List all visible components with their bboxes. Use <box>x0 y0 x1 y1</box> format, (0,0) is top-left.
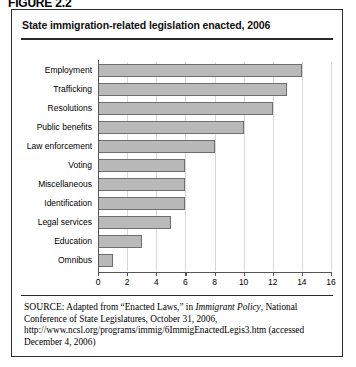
bar-row: Resolutions <box>98 100 331 119</box>
bar <box>98 197 185 210</box>
bar-row: Public benefits <box>98 119 331 138</box>
chart-title: State immigration-related legislation en… <box>22 19 270 31</box>
category-label: Employment <box>45 63 92 77</box>
x-axis-tick <box>215 272 216 276</box>
bar <box>98 235 142 248</box>
category-label: Omnibus <box>58 253 92 267</box>
x-axis-tick <box>302 272 303 276</box>
x-axis-tick-label: 8 <box>212 277 217 287</box>
gridline <box>331 62 332 271</box>
bar-row: Identification <box>98 195 331 214</box>
title-divider <box>21 38 333 40</box>
x-axis-tick-label: 16 <box>326 277 335 287</box>
x-axis-tick-label: 10 <box>239 277 248 287</box>
x-axis-tick <box>185 272 186 276</box>
bar-row: Voting <box>98 157 331 176</box>
x-axis-tick <box>273 272 274 276</box>
bar <box>98 121 244 134</box>
figure-container: State immigration-related legislation en… <box>11 9 343 357</box>
category-label: Law enforcement <box>27 139 92 153</box>
source-text-before: Adapted from “Enacted Laws,” in <box>65 302 196 312</box>
x-axis-tick-label: 2 <box>125 277 130 287</box>
category-label: Resolutions <box>48 101 92 115</box>
bar-row: Omnibus <box>98 252 331 271</box>
x-axis-tick-label: 12 <box>268 277 277 287</box>
x-axis-tick <box>127 272 128 276</box>
category-label: Legal services <box>38 215 92 229</box>
x-axis-tick <box>331 272 332 276</box>
category-label: Miscellaneous <box>38 177 92 191</box>
source-divider <box>21 295 333 296</box>
bar-row: Miscellaneous <box>98 176 331 195</box>
x-axis-tick-label: 6 <box>183 277 188 287</box>
x-axis-tick <box>156 272 157 276</box>
category-label: Voting <box>68 158 92 172</box>
bar-row: Law enforcement <box>98 138 331 157</box>
bar <box>98 159 185 172</box>
x-axis-tick <box>98 272 99 276</box>
bar <box>98 64 302 77</box>
category-label: Education <box>54 234 92 248</box>
x-axis-tick <box>244 272 245 276</box>
bar <box>98 254 113 267</box>
category-label: Identification <box>44 196 92 210</box>
bar <box>98 216 171 229</box>
bar-row: Legal services <box>98 214 331 233</box>
bar <box>98 140 215 153</box>
x-axis-tick-label: 4 <box>154 277 159 287</box>
source-prefix: SOURCE: <box>24 301 65 312</box>
chart-plot-area: EmploymentTraffickingResolutionsPublic b… <box>98 62 331 271</box>
source-publication-title: Immigrant Policy <box>195 302 260 312</box>
bar-row: Trafficking <box>98 81 331 100</box>
category-label: Trafficking <box>53 82 92 96</box>
bar-row: Education <box>98 233 331 252</box>
bar-row: Employment <box>98 62 331 81</box>
category-label: Public benefits <box>37 120 92 134</box>
x-axis-tick-label: 14 <box>297 277 306 287</box>
bar <box>98 83 287 96</box>
y-axis-line <box>98 60 99 273</box>
source-note: SOURCE: Adapted from “Enacted Laws,” in … <box>24 301 326 348</box>
x-axis-tick-label: 0 <box>96 277 101 287</box>
bar <box>98 102 273 115</box>
bar <box>98 178 185 191</box>
